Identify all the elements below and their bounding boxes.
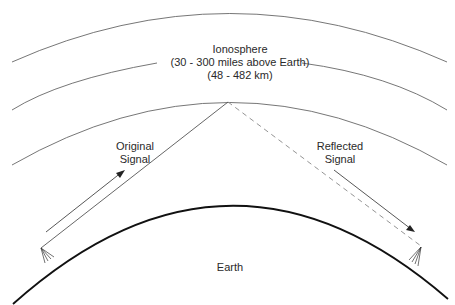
reflected-signal-line1: Reflected [305,140,375,153]
earth-label: Earth [200,261,260,274]
ionosphere-middle-arc-right [302,63,447,110]
reflected-signal-path [228,102,421,246]
original-arrow-head-icon [116,170,125,178]
original-signal-line1: Original [105,140,165,153]
reflected-signal-label: Reflected Signal [305,140,375,166]
reflected-signal-arrow [334,170,411,229]
original-signal-line2: Signal [105,153,165,166]
receiver-antenna-icon [409,247,421,266]
ionosphere-label: Ionosphere (30 - 300 miles above Earth) … [160,43,320,82]
original-signal-label: Original Signal [105,140,165,166]
transmitter-antenna-icon [41,248,54,263]
ionosphere-middle-arc-left [12,63,157,110]
reflected-signal-line2: Signal [305,153,375,166]
original-signal-arrow [46,172,122,232]
ionosphere-range-km: (48 - 482 km) [160,69,320,82]
ionosphere-title: Ionosphere [160,43,320,56]
ionosphere-range-miles: (30 - 300 miles above Earth) [160,56,320,69]
ionosphere-inner-arc [12,103,447,166]
earth-surface-arc [13,206,448,304]
